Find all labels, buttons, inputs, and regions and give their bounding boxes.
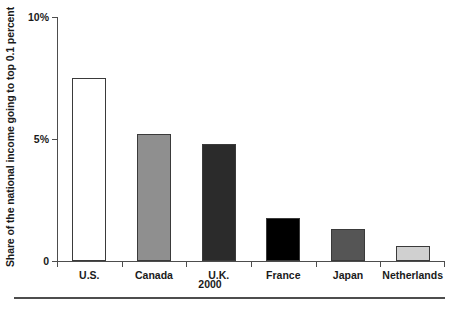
x-tick-mark bbox=[444, 262, 445, 267]
y-tick-mark bbox=[52, 17, 57, 18]
bar bbox=[331, 229, 365, 261]
x-tick-label: Japan bbox=[333, 269, 363, 282]
x-tick-mark bbox=[380, 262, 381, 267]
x-tick-label: Netherlands bbox=[382, 269, 443, 282]
bar bbox=[202, 144, 236, 261]
x-tick-mark bbox=[316, 262, 317, 267]
x-tick-mark bbox=[251, 262, 252, 267]
y-tick-label: 0 bbox=[43, 256, 49, 267]
bar bbox=[137, 134, 171, 261]
plot-area: 10%5%0 U.S.CanadaU.K.FranceJapanNetherla… bbox=[57, 17, 445, 262]
bar bbox=[72, 78, 106, 261]
y-tick-label: 10% bbox=[28, 12, 49, 23]
y-tick-mark bbox=[52, 139, 57, 140]
bar bbox=[396, 246, 430, 261]
x-tick-label: Canada bbox=[135, 269, 173, 282]
y-axis-line bbox=[57, 17, 58, 262]
x-tick-mark bbox=[57, 262, 58, 267]
x-tick-mark bbox=[186, 262, 187, 267]
bar-chart: Share of the national income going to to… bbox=[0, 0, 459, 311]
x-tick-mark bbox=[122, 262, 123, 267]
x-tick-label: France bbox=[266, 269, 300, 282]
y-tick-label: 5% bbox=[34, 134, 49, 145]
x-axis-sub-label: 2000 bbox=[198, 278, 221, 291]
y-axis-title: Share of the national income going to to… bbox=[2, 6, 18, 268]
bar bbox=[266, 218, 300, 261]
bottom-rule-divider bbox=[14, 297, 445, 299]
x-tick-label: U.S. bbox=[79, 269, 99, 282]
